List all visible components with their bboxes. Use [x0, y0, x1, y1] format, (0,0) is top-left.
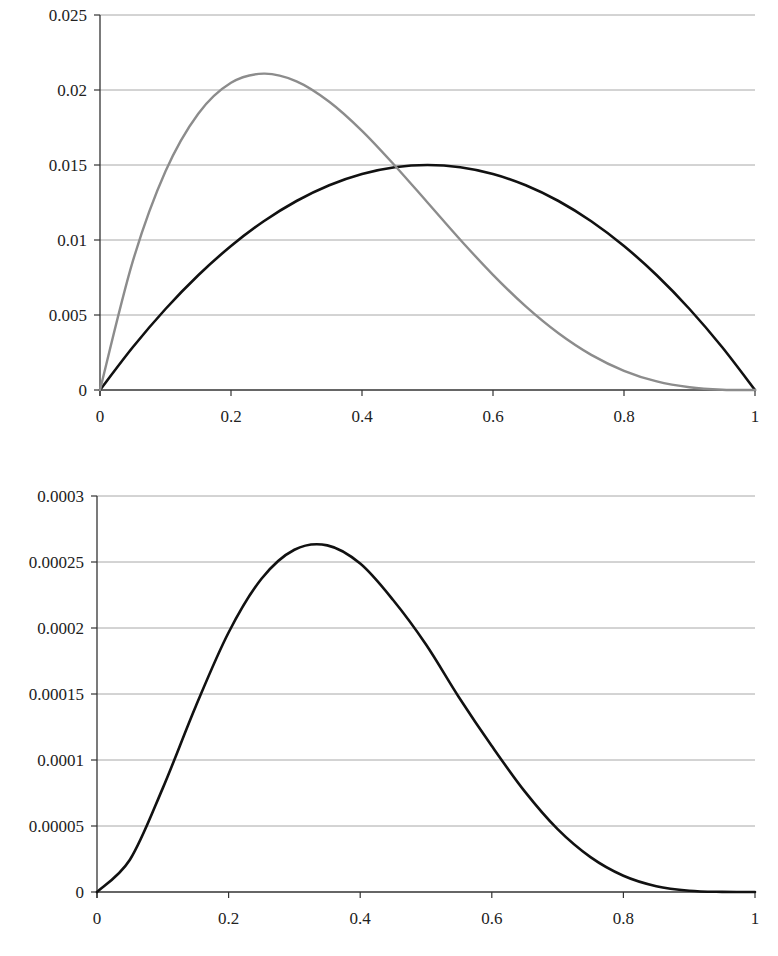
y-tick-label: 0 [76, 883, 85, 902]
x-tick-label: 1 [751, 407, 760, 426]
y-tick-label: 0.00015 [29, 685, 84, 704]
bottom-chart: 00.000050.00010.000150.00020.000250.0003… [29, 487, 760, 928]
x-tick-label: 0.2 [220, 407, 241, 426]
y-tick-label: 0.005 [49, 306, 87, 325]
y-tick-label: 0.00025 [29, 553, 84, 572]
y-tick-label: 0.015 [49, 156, 87, 175]
x-tick-label: 0.8 [613, 407, 634, 426]
x-tick-label: 0.6 [482, 407, 503, 426]
charts-canvas: 00.0050.010.0150.020.02500.20.40.60.81 0… [0, 0, 778, 956]
x-tick-label: 1 [751, 909, 760, 928]
y-tick-label: 0.00005 [29, 817, 84, 836]
x-tick-label: 0 [96, 407, 105, 426]
x-tick-label: 0.2 [218, 909, 239, 928]
y-tick-label: 0.0001 [37, 751, 84, 770]
x-tick-label: 0.8 [613, 909, 634, 928]
x-tick-label: 0.4 [351, 407, 373, 426]
series-line-0 [97, 544, 755, 892]
y-tick-label: 0.025 [49, 6, 87, 25]
top-chart: 00.0050.010.0150.020.02500.20.40.60.81 [49, 6, 760, 426]
y-tick-label: 0.02 [57, 81, 87, 100]
series-line-1 [100, 74, 755, 390]
y-tick-label: 0.0003 [37, 487, 84, 506]
x-tick-label: 0.6 [481, 909, 502, 928]
x-tick-label: 0.4 [350, 909, 372, 928]
series-line-0 [100, 165, 755, 390]
y-tick-label: 0 [79, 381, 88, 400]
x-tick-label: 0 [93, 909, 102, 928]
y-tick-label: 0.01 [57, 231, 87, 250]
y-tick-label: 0.0002 [37, 619, 84, 638]
